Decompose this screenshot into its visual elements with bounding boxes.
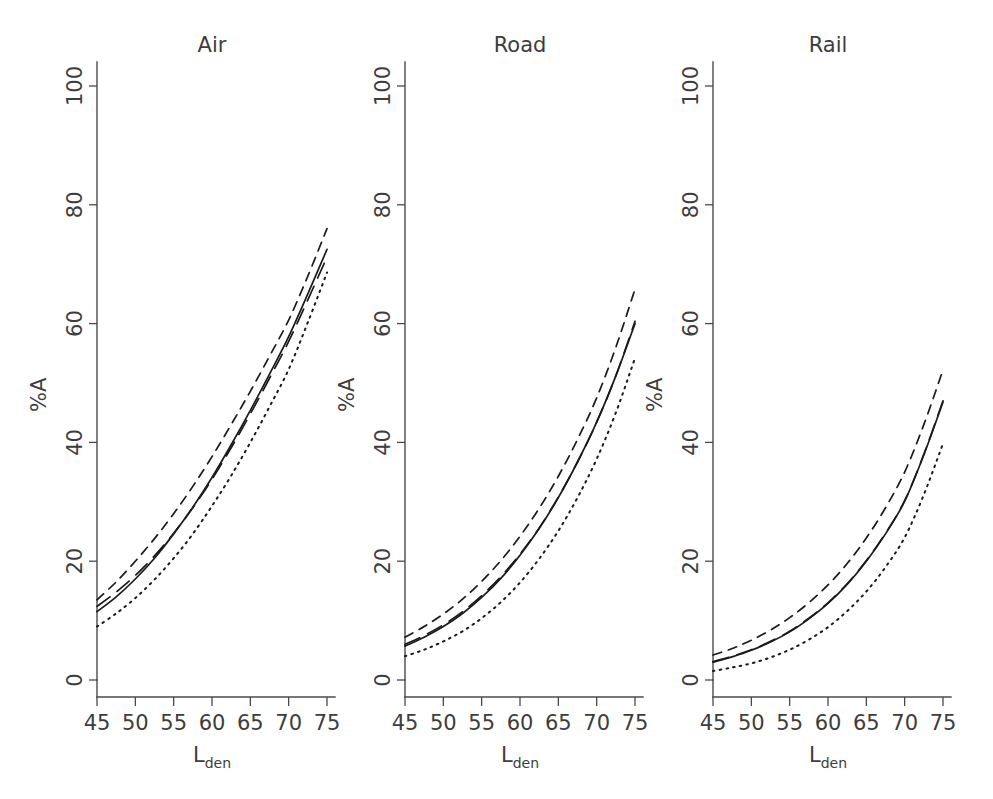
curve-rail-long-dashed: [713, 401, 943, 662]
y-tick-label: 40: [679, 429, 703, 456]
y-tick-label: 80: [371, 191, 395, 218]
panel-road: Road020406080100%A45505560657075Lden: [335, 33, 648, 771]
panel-title-rail: Rail: [809, 33, 848, 57]
x-tick-label: 45: [700, 711, 727, 735]
y-axis-title: %A: [335, 377, 359, 412]
panel-title-road: Road: [494, 33, 547, 57]
y-tick-label: 60: [371, 310, 395, 337]
curve-rail-solid: [713, 402, 943, 662]
x-tick-label: 70: [583, 711, 610, 735]
x-tick-label: 60: [507, 711, 534, 735]
curve-rail-dashed-upper: [713, 370, 943, 655]
y-tick-label: 20: [63, 548, 87, 575]
y-tick-label: 60: [679, 310, 703, 337]
x-tick-label: 50: [430, 711, 457, 735]
x-tick-label: 55: [160, 711, 187, 735]
panel-title-air: Air: [198, 33, 227, 57]
y-tick-label: 0: [679, 673, 703, 686]
y-tick-label: 80: [63, 191, 87, 218]
y-tick-label: 60: [63, 310, 87, 337]
x-tick-label: 60: [815, 711, 842, 735]
x-tick-label: 55: [468, 711, 495, 735]
x-tick-label: 45: [84, 711, 111, 735]
x-tick-label: 55: [776, 711, 803, 735]
exposure-response-chart: Air020406080100%A45505560657075LdenRoad0…: [0, 0, 993, 799]
x-tick-label: 50: [738, 711, 765, 735]
x-tick-label: 75: [622, 711, 649, 735]
x-axis-title: Lden: [501, 743, 539, 771]
y-axis-title: %A: [27, 377, 51, 412]
curve-air-dashed-upper: [97, 229, 327, 600]
curve-road-solid: [405, 324, 635, 647]
y-tick-label: 40: [63, 429, 87, 456]
y-tick-label: 0: [371, 673, 395, 686]
y-tick-label: 0: [63, 673, 87, 686]
x-tick-label: 75: [930, 711, 957, 735]
x-tick-label: 70: [275, 711, 302, 735]
x-tick-label: 45: [392, 711, 419, 735]
y-tick-label: 100: [63, 66, 87, 106]
curve-air-long-dashed: [97, 257, 327, 606]
y-tick-label: 20: [371, 548, 395, 575]
panel-air: Air020406080100%A45505560657075Lden: [27, 33, 340, 771]
x-axis-title: Lden: [193, 743, 231, 771]
y-tick-label: 100: [371, 66, 395, 106]
curve-air-solid: [97, 249, 327, 611]
x-tick-label: 65: [853, 711, 880, 735]
curve-road-dotted-lower: [405, 358, 635, 656]
panel-rail: Rail020406080100%A45505560657075Lden: [643, 33, 956, 771]
x-tick-label: 70: [891, 711, 918, 735]
x-tick-label: 65: [237, 711, 264, 735]
figure-container: Air020406080100%A45505560657075LdenRoad0…: [0, 0, 993, 799]
x-tick-label: 75: [314, 711, 341, 735]
curve-rail-dotted-lower: [713, 444, 943, 672]
y-tick-label: 80: [679, 191, 703, 218]
y-tick-label: 100: [679, 66, 703, 106]
y-tick-label: 20: [679, 548, 703, 575]
x-tick-label: 60: [199, 711, 226, 735]
y-axis-title: %A: [643, 377, 667, 412]
x-tick-label: 50: [122, 711, 149, 735]
x-tick-label: 65: [545, 711, 572, 735]
curve-road-dashed-upper: [405, 289, 635, 637]
y-tick-label: 40: [371, 429, 395, 456]
x-axis-title: Lden: [809, 743, 847, 771]
curve-air-dotted-lower: [97, 273, 327, 627]
curve-road-long-dashed: [405, 321, 635, 644]
